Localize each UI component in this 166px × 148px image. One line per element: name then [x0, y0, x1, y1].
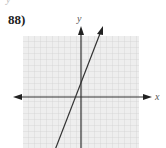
line-arrow-icon — [97, 26, 103, 35]
y-axis-label: y — [76, 13, 82, 24]
x-axis-label: x — [154, 91, 160, 102]
x-axis-left-arrow-icon — [13, 94, 22, 100]
y-axis-up-arrow-icon — [78, 26, 84, 35]
coordinate-plane: x y — [0, 0, 166, 148]
x-axis-right-arrow-icon — [143, 94, 152, 100]
